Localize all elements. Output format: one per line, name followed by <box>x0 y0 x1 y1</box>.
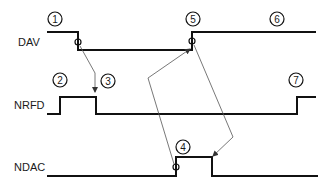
svg-text:4: 4 <box>180 142 186 153</box>
svg-text:1: 1 <box>52 14 58 25</box>
ndac-trace <box>47 157 318 176</box>
signal-label-dav: DAV <box>18 36 40 48</box>
svg-text:7: 7 <box>293 75 299 86</box>
signal-label-ndac: NDAC <box>14 161 45 173</box>
timing-diagram: DAV NRFD NDAC 1 2 3 4 5 6 7 <box>0 0 330 190</box>
marker-3: 3 <box>101 74 115 88</box>
svg-text:5: 5 <box>190 14 196 25</box>
svg-text:6: 6 <box>274 14 280 25</box>
arrow-dav-to-ndac <box>194 45 233 156</box>
marker-7: 7 <box>289 73 303 87</box>
marker-6: 6 <box>270 12 284 26</box>
marker-4: 4 <box>176 140 190 154</box>
nrfd-trace <box>47 97 316 114</box>
marker-2: 2 <box>53 73 67 87</box>
marker-5: 5 <box>186 12 200 26</box>
signal-label-nrfd: NRFD <box>14 99 45 111</box>
dav-trace <box>47 32 316 50</box>
marker-1: 1 <box>48 12 62 26</box>
svg-text:2: 2 <box>57 75 63 86</box>
svg-text:3: 3 <box>105 76 111 87</box>
arrow-dav-to-nrfd <box>80 46 95 92</box>
